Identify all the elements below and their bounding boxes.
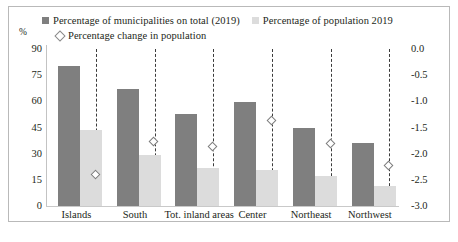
category-label-northeast: Northeast	[282, 209, 341, 221]
legend-diamond-icon-population-change	[54, 30, 65, 41]
bar-population-northwest[interactable]	[374, 186, 396, 206]
left-axis-tick-60: 60	[12, 96, 42, 106]
legend-item-population[interactable]: Percentage of population 2019	[252, 15, 393, 26]
marker-population-change-northwest[interactable]	[384, 160, 394, 170]
bar-population-tot-inland-areas[interactable]	[197, 168, 219, 206]
bar-municipalities-northwest[interactable]	[352, 143, 374, 206]
category-label-northwest: Northwest	[341, 209, 400, 221]
bar-population-northeast[interactable]	[315, 176, 337, 207]
bar-municipalities-south[interactable]	[117, 89, 139, 206]
plot-area: 90 75 60 45 30 15 0 0.0 -0.5 -1.0 -1.5 -…	[47, 49, 399, 206]
legend-label-municipalities: Percentage of municipalities on total (2…	[53, 15, 240, 26]
left-axis-unit-label: %	[19, 27, 27, 37]
legend-item-municipalities[interactable]: Percentage of municipalities on total (2…	[42, 15, 240, 26]
bar-group-islands	[47, 49, 106, 206]
bar-municipalities-northeast[interactable]	[293, 128, 315, 207]
bottom-axis-line	[46, 206, 399, 207]
bar-group-northwest	[341, 49, 400, 206]
bar-group-south	[106, 49, 165, 206]
legend-label-population: Percentage of population 2019	[263, 15, 393, 26]
marker-population-change-northeast[interactable]	[325, 139, 335, 149]
bar-municipalities-islands[interactable]	[58, 66, 80, 206]
left-axis-tick-0: 0	[12, 201, 42, 211]
marker-population-change-south[interactable]	[149, 136, 159, 146]
right-axis-tick-0: 0.0	[411, 44, 443, 54]
legend-row-secondary: Percentage change in population	[9, 28, 458, 43]
chart-frame: Percentage of municipalities on total (2…	[8, 6, 450, 222]
legend-row-primary: Percentage of municipalities on total (2…	[9, 13, 458, 28]
bar-population-islands[interactable]	[80, 130, 102, 206]
chart-figure: Percentage of municipalities on total (2…	[0, 0, 458, 242]
category-label-south: South	[106, 209, 165, 221]
category-label-tot-inland-areas: Tot. inland areas	[164, 209, 223, 221]
legend-square-icon-municipalities	[42, 17, 49, 24]
category-label-islands: Islands	[47, 209, 106, 221]
right-axis-tick-n2-5: -2.5	[411, 175, 443, 185]
marker-population-change-tot-inland-areas[interactable]	[208, 141, 218, 151]
left-axis-tick-15: 15	[12, 175, 42, 185]
bar-municipalities-center[interactable]	[234, 102, 256, 206]
left-axis-tick-90: 90	[12, 44, 42, 54]
marker-population-change-center[interactable]	[266, 115, 276, 125]
category-label-center: Center	[223, 209, 282, 221]
legend-square-icon-population	[252, 17, 259, 24]
chart-legend: Percentage of municipalities on total (2…	[9, 11, 451, 45]
left-axis-tick-45: 45	[12, 123, 42, 133]
bar-group-northeast	[282, 49, 341, 206]
bar-municipalities-tot-inland-areas[interactable]	[175, 114, 197, 207]
right-axis-tick-n2-0: -2.0	[411, 149, 443, 159]
bar-group-center	[223, 49, 282, 206]
right-axis-tick-n3-0: -3.0	[411, 201, 443, 211]
right-axis-tick-n1-0: -1.0	[411, 96, 443, 106]
left-axis-tick-75: 75	[12, 70, 42, 80]
right-axis-tick-n0-5: -0.5	[411, 70, 443, 80]
legend-label-population-change: Percentage change in population	[68, 30, 206, 41]
bar-population-center[interactable]	[256, 170, 278, 206]
bar-population-south[interactable]	[139, 155, 161, 206]
legend-item-population-change[interactable]: Percentage change in population	[56, 30, 206, 41]
right-axis-tick-n1-5: -1.5	[411, 123, 443, 133]
left-axis-tick-30: 30	[12, 149, 42, 159]
bar-group-tot-inland-areas	[164, 49, 223, 206]
